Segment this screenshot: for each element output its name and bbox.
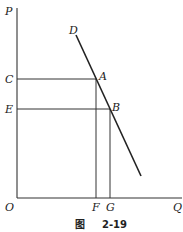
point-label-a: A: [98, 70, 107, 83]
price-axis-label: P: [4, 5, 13, 18]
caption-prefix: 图: [75, 219, 85, 230]
origin-label: O: [5, 201, 14, 214]
demand-curve: [76, 35, 141, 176]
curve-label-d: D: [68, 24, 78, 37]
quantity-label-g: G: [106, 201, 115, 214]
quantity-label-f: F: [91, 201, 100, 214]
quantity-axis-label: Q: [173, 201, 182, 214]
price-label-c: C: [5, 73, 14, 86]
price-label-e: E: [4, 103, 13, 116]
caption-number: 2-19: [102, 219, 127, 230]
point-label-b: B: [111, 101, 120, 114]
diagram-canvas: P D A B C E O F G Q 图 2-19: [0, 0, 183, 232]
